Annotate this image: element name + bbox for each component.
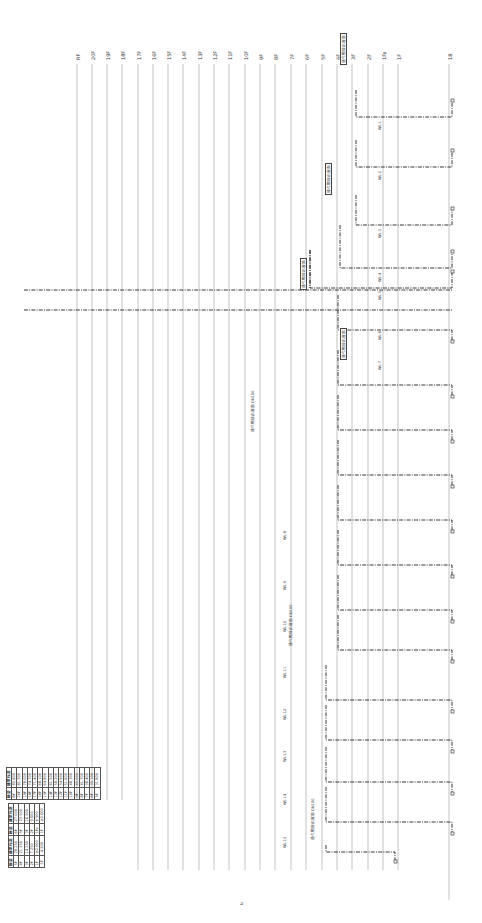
riser-tag: WL-2	[378, 171, 382, 180]
drain-pipes	[24, 90, 452, 860]
vent-note-label: 通气帽接出屋面	[300, 258, 307, 290]
legend-row: 5F31.800	[95, 768, 100, 800]
drain-riser	[338, 615, 452, 660]
legend-row: 17F71.400	[33, 768, 38, 800]
cleanout-icon	[451, 270, 454, 273]
floor-label: 17F	[136, 51, 142, 60]
north-mark: N	[240, 902, 244, 905]
legend-row: 16F68.100	[38, 768, 43, 800]
legend-row: -1F-4.5001F±0.000	[40, 804, 45, 868]
cleanout-icon	[451, 250, 454, 253]
cleanout-icon	[451, 340, 454, 343]
legend-row: 18F74.700	[27, 768, 32, 800]
legend-row: 11F51.600	[64, 768, 69, 800]
drain-riser	[326, 747, 452, 792]
riser-tag: WL-6	[378, 331, 382, 340]
drain-riser	[340, 225, 452, 268]
floor-label: 19F	[105, 51, 111, 60]
cleanout-icon	[451, 575, 454, 578]
legend-cell: -4.500	[40, 836, 45, 856]
riser-tag: WL-10	[283, 621, 287, 632]
cleanout-icon	[451, 620, 454, 623]
drain-riser	[338, 350, 452, 395]
vent-note-label: 通气帽接出屋面	[340, 328, 347, 360]
floor-label: 1Fa	[381, 51, 387, 60]
drain-riser	[338, 295, 452, 340]
legend-header: 建筑标高	[9, 836, 14, 856]
legend-row: 10F48.300	[69, 768, 74, 800]
drain-riser	[356, 195, 452, 225]
cleanout-icon	[451, 395, 454, 398]
floor-lines	[77, 64, 449, 900]
floor-label: 9F	[258, 54, 264, 60]
drain-riser	[356, 90, 452, 117]
legend-row: 8F41.700	[79, 768, 84, 800]
elevation-legend-table-lower: 楼层建筑标高楼层建筑标高5F28.2506F27.0004F21.2505F23…	[8, 803, 45, 868]
floor-label: 18F	[120, 51, 126, 60]
cleanout-icon	[451, 530, 454, 533]
drain-riser	[338, 395, 452, 440]
legend-cell: 31.800	[95, 768, 100, 788]
drain-riser	[326, 787, 452, 832]
legend-header: 建筑标高	[7, 768, 12, 788]
cleanout-icon	[451, 660, 454, 663]
drain-riser	[338, 440, 452, 485]
drain-riser	[326, 845, 395, 860]
floor-label: 16F	[151, 51, 157, 60]
cleanout-icon	[451, 750, 454, 753]
floor-label: 5F	[320, 54, 326, 60]
legend-row: 15F64.800	[43, 768, 48, 800]
floor-label: 8F	[273, 54, 279, 60]
legend-row: 20F81.300	[17, 768, 22, 800]
cleanout-icon	[451, 485, 454, 488]
riser-tag: WL-12	[283, 709, 287, 720]
floor-label: 1F	[396, 54, 402, 60]
vent-note-label: 通气帽接出屋面	[325, 163, 332, 195]
cleanout-icon	[451, 832, 454, 835]
floor-label: 11F	[227, 51, 233, 60]
vent-note-label: 通气帽接出屋面 DN100	[288, 605, 293, 646]
legend-row: 19F78.000	[22, 768, 27, 800]
riser-tag: WL-11	[283, 667, 287, 678]
cleanout-icon	[451, 792, 454, 795]
vent-note-label: 通气帽接出屋面	[340, 33, 347, 65]
drain-riser	[326, 665, 452, 710]
floor-label: 2F	[366, 54, 372, 60]
cleanout-icon	[451, 207, 454, 210]
floor-label: 1B	[447, 53, 453, 60]
legend-cell: 5F	[95, 788, 100, 800]
drain-riser	[338, 575, 452, 620]
riser-tag: WL-15	[283, 837, 287, 848]
legend-row: 12F54.900	[59, 768, 64, 800]
legend-row: 9F45.000	[74, 768, 79, 800]
cleanout-icon	[451, 149, 454, 152]
drain-riser	[356, 140, 452, 167]
riser-tag: WL-7	[378, 361, 382, 370]
cleanout-icon	[451, 440, 454, 443]
riser-tag: WL-3	[378, 229, 382, 238]
legend-cell: 1F	[40, 824, 45, 836]
drain-riser	[326, 705, 452, 750]
elevation-legend-table: 楼层建筑标高RF85.80020F81.30019F78.00018F74.70…	[6, 767, 101, 800]
floor-label: 10F	[243, 51, 249, 60]
riser-tag: WL-5	[378, 291, 382, 300]
drain-riser	[310, 250, 452, 288]
riser-tag: WL-9	[283, 581, 287, 590]
riser-tag: WL-8	[283, 531, 287, 540]
legend-row: 6F35.100	[90, 768, 95, 800]
cleanout-icon	[451, 99, 454, 102]
floor-label: 12F	[212, 51, 218, 60]
legend-row: 14F61.500	[48, 768, 53, 800]
cleanout-icon	[451, 710, 454, 713]
cleanout-icon	[394, 860, 397, 863]
riser-tag: WL-13	[283, 751, 287, 762]
floor-label: 20F	[90, 51, 96, 60]
legend-row: 13F58.200	[53, 768, 58, 800]
legend-cell: ±0.000	[40, 804, 45, 824]
legend-row: 7F38.400	[85, 768, 90, 800]
floor-label: 3F	[350, 54, 356, 60]
floor-label: 14F	[181, 51, 187, 60]
floor-label: RF	[75, 54, 81, 60]
vent-note-label: 通气帽接出屋面 DN100	[250, 391, 255, 432]
riser-tag: WL-4	[378, 273, 382, 282]
